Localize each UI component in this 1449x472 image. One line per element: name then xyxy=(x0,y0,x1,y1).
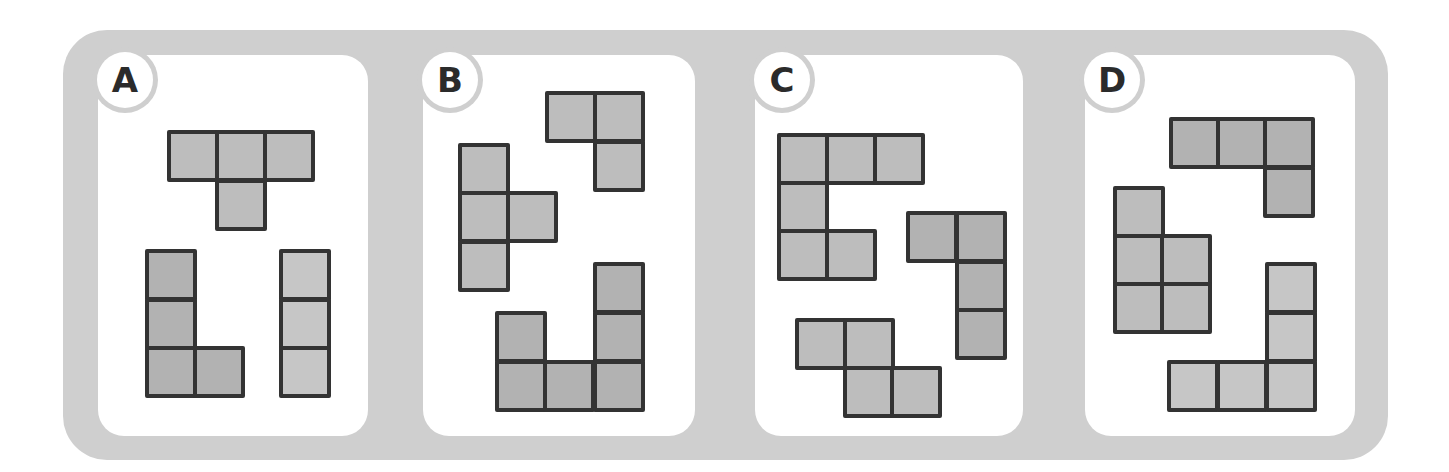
polyomino-cell-s-tetromino xyxy=(795,318,847,370)
polyomino-cell-t-tetromino xyxy=(215,179,267,231)
polyomino-cell-t-tetromino xyxy=(263,130,315,182)
polyomino-cell-j-tetromino xyxy=(955,260,1007,312)
polyomino-cell-u-hexomino xyxy=(593,360,645,412)
polyomino-cell-c-hexomino xyxy=(873,133,925,185)
polyomino-cell-v-pentomino xyxy=(1265,311,1317,363)
polyomino-cell-u-hexomino xyxy=(495,311,547,363)
polyomino-cell-t-tetromino-vertical xyxy=(458,240,510,292)
polyomino-cell-p-pentomino xyxy=(1160,234,1212,286)
polyomino-cell-v-pentomino xyxy=(1265,360,1317,412)
polyomino-cell-t-tetromino-vertical xyxy=(506,191,558,243)
polyomino-cell-c-hexomino xyxy=(777,133,829,185)
option-label: A xyxy=(97,52,153,108)
polyomino-cell-v-pentomino xyxy=(1167,360,1219,412)
polyomino-cell-l-tetromino xyxy=(145,346,197,398)
option-label: B xyxy=(422,52,478,108)
polyomino-cell-t-tetromino-vertical xyxy=(458,143,510,195)
polyomino-cell-j-tetromino xyxy=(955,308,1007,360)
polyomino-cell-u-hexomino xyxy=(543,360,595,412)
polyomino-cell-j-tetromino xyxy=(1169,117,1221,169)
polyomino-cell-u-hexomino xyxy=(593,311,645,363)
option-label: C xyxy=(754,52,810,108)
polyomino-cell-p-pentomino xyxy=(1113,186,1165,238)
polyomino-cell-j-tetromino xyxy=(906,211,958,263)
polyomino-cell-t-tetromino xyxy=(215,130,267,182)
polyomino-cell-c-hexomino xyxy=(777,229,829,281)
polyomino-cell-s-tetromino xyxy=(890,366,942,418)
polyomino-cell-corner-tromino xyxy=(545,91,597,143)
polyomino-cell-c-hexomino xyxy=(825,133,877,185)
polyomino-cell-c-hexomino xyxy=(825,229,877,281)
polyomino-cell-i-tromino xyxy=(279,346,331,398)
polyomino-cell-i-tromino xyxy=(279,249,331,301)
polyomino-cell-l-tetromino xyxy=(145,298,197,350)
polyomino-cell-j-tetromino xyxy=(1263,117,1315,169)
polyomino-cell-i-tromino xyxy=(279,298,331,350)
polyomino-cell-v-pentomino xyxy=(1216,360,1268,412)
polyomino-cell-c-hexomino xyxy=(777,181,829,233)
option-label-badge: C xyxy=(749,47,815,113)
polyomino-cell-v-pentomino xyxy=(1265,262,1317,314)
polyomino-cell-corner-tromino xyxy=(593,140,645,192)
option-label: D xyxy=(1084,52,1140,108)
polyomino-cell-p-pentomino xyxy=(1113,282,1165,334)
polyomino-cell-j-tetromino xyxy=(1263,166,1315,218)
polyomino-cell-p-pentomino xyxy=(1113,234,1165,286)
polyomino-cell-j-tetromino xyxy=(1216,117,1268,169)
option-label-badge: A xyxy=(92,47,158,113)
polyomino-cell-l-tetromino xyxy=(193,346,245,398)
polyomino-cell-s-tetromino xyxy=(843,366,895,418)
polyomino-cell-u-hexomino xyxy=(593,262,645,314)
polyomino-cell-u-hexomino xyxy=(495,360,547,412)
polyomino-cell-t-tetromino-vertical xyxy=(458,191,510,243)
option-label-badge: B xyxy=(417,47,483,113)
polyomino-cell-p-pentomino xyxy=(1160,282,1212,334)
polyomino-cell-s-tetromino xyxy=(843,318,895,370)
polyomino-cell-j-tetromino xyxy=(955,211,1007,263)
polyomino-cell-t-tetromino xyxy=(167,130,219,182)
option-label-badge: D xyxy=(1079,47,1145,113)
polyomino-cell-corner-tromino xyxy=(593,91,645,143)
polyomino-cell-l-tetromino xyxy=(145,249,197,301)
